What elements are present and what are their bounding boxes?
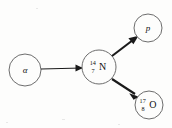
arrow-alpha-to-nitrogen: [41, 65, 83, 72]
arrow-shaft-nitrogen-oxygen: [112, 79, 135, 94]
reaction-svg-canvas: α 14 7 N p: [0, 0, 172, 128]
node-nitrogen-14: 14 7 N: [82, 50, 116, 84]
scan-speck: [62, 119, 65, 120]
oxygen-mass-number: 17: [140, 98, 146, 105]
scan-speck: [6, 122, 8, 123]
oxygen-atomic-number: 8: [142, 105, 145, 112]
nitrogen-element-symbol: N: [99, 61, 106, 72]
alpha-label: α: [23, 65, 28, 75]
proton-label: p: [145, 23, 151, 33]
arrow-nitrogen-to-oxygen: [112, 79, 139, 100]
nitrogen-mass-number: 14: [90, 60, 96, 67]
node-alpha: α: [9, 54, 41, 86]
arrow-nitrogen-to-proton: [112, 36, 139, 56]
nitrogen-atomic-number: 7: [91, 67, 94, 74]
node-proton: p: [134, 14, 162, 42]
scan-speck: [36, 8, 38, 9]
scan-speck: [118, 124, 120, 125]
oxygen-element-symbol: O: [149, 99, 156, 110]
nuclear-reaction-diagram: α 14 7 N p: [0, 0, 172, 128]
node-oxygen-17: 17 8 O: [135, 91, 163, 119]
